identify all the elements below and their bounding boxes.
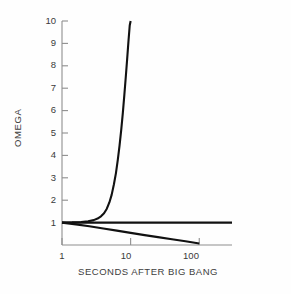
y-axis-ticks <box>62 21 68 223</box>
plot-canvas <box>0 0 291 294</box>
chart-figure: OMEGA SECONDS AFTER BIG BANG 10 9 8 7 6 … <box>0 0 291 294</box>
data-series-line <box>62 21 131 223</box>
x-axis-ticks <box>62 238 199 245</box>
data-series-group <box>62 21 232 243</box>
